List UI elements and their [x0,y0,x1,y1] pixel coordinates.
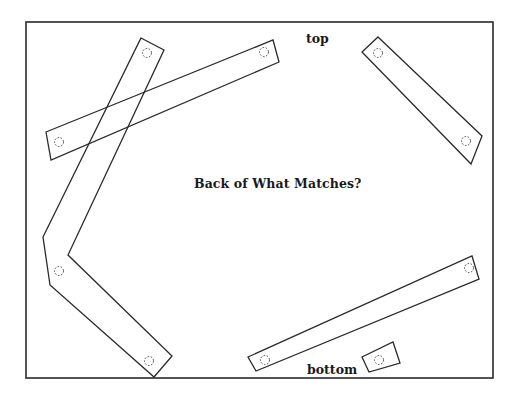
strip-upper-diagonal-outline [46,40,279,160]
hole-icon [374,49,383,58]
bottom-label: bottom [307,364,357,377]
top-label: top [306,33,329,46]
small-square [362,342,400,372]
strip-bottom-outline [248,256,479,371]
strip-upper-right [362,37,482,164]
hole-icon [465,264,474,273]
diagram-title: Back of What Matches? [194,178,362,191]
hole-icon [261,356,270,365]
strip-bottom [248,256,479,371]
hole-icon [143,49,152,58]
hole-icon [145,357,154,366]
strip-upper-diagonal [46,40,279,160]
puzzle-diagram [0,0,515,397]
small-square-outline [362,342,400,372]
hole-icon [375,356,384,365]
strip-upper-right-outline [362,37,482,164]
match-pieces [43,37,482,377]
frame-border [26,22,493,378]
hole-icon [55,138,64,147]
hole-icon [462,137,471,146]
hole-icon [260,48,269,57]
hole-icon [55,267,64,276]
